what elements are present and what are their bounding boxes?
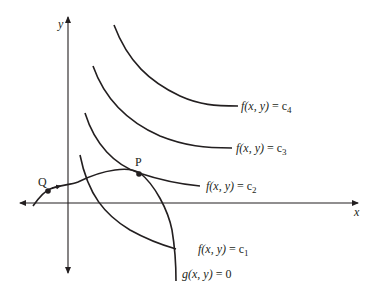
level-curve-c4	[114, 25, 238, 106]
level-curve-c3	[93, 66, 232, 148]
y-axis-label: y	[57, 17, 64, 31]
constraint-curve-label: g(x, y) = 0	[182, 267, 231, 281]
point-p	[136, 171, 142, 177]
level-curve-c1-label: f(x, y) = c1	[198, 242, 249, 258]
point-q	[45, 188, 51, 194]
level-curve-c2-label: f(x, y) = c2	[206, 179, 257, 195]
level-curve-c3-label: f(x, y) = c3	[236, 141, 287, 157]
constraint-curve-g	[33, 169, 176, 281]
point-p-label: P	[135, 155, 142, 169]
lagrange-diagram: y x f(x, y) = c4 f(x, y) = c3 f(x, y) = …	[0, 0, 371, 292]
x-axis-label: x	[353, 205, 360, 219]
level-curve-c4-label: f(x, y) = c4	[241, 99, 292, 115]
point-q-label: Q	[38, 175, 47, 189]
